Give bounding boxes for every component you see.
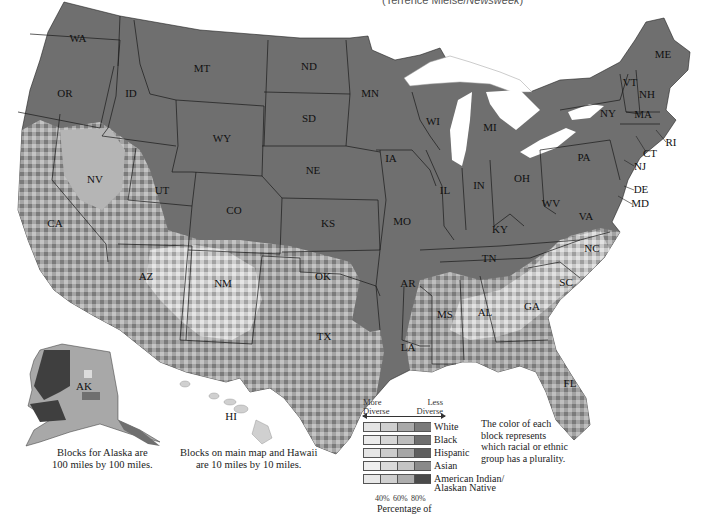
legend-swatch <box>397 448 414 458</box>
state-label-ks: KS <box>321 217 335 229</box>
state-label-hi: HI <box>225 410 237 422</box>
legend-axis-label: Percentage of <box>377 503 563 514</box>
legend-label-alaskan-native: Alaskan Native <box>434 482 496 493</box>
legend-swatch <box>380 448 397 458</box>
state-label-nm: NM <box>214 277 232 289</box>
state-label-nd: ND <box>301 60 317 72</box>
alaska-inset <box>26 344 160 446</box>
state-label-in: IN <box>473 179 485 191</box>
legend-swatch <box>414 435 431 445</box>
state-label-wi: WI <box>426 115 440 127</box>
legend-swatch <box>397 474 414 484</box>
legend-swatch <box>363 461 380 471</box>
state-label-ky: KY <box>492 223 508 235</box>
state-label-ut: UT <box>155 184 170 196</box>
main-scale-note: Blocks on main map and Hawaiiare 10 mile… <box>180 447 317 471</box>
state-label-or: OR <box>57 87 73 99</box>
state-label-me: ME <box>655 48 672 60</box>
state-label-mn: MN <box>361 87 379 99</box>
state-label-pa: PA <box>577 151 590 163</box>
legend-swatch <box>414 422 431 432</box>
state-label-va: VA <box>579 210 594 222</box>
state-label-la: LA <box>401 341 416 353</box>
legend-swatch <box>363 474 380 484</box>
state-label-mi: MI <box>483 121 497 133</box>
state-label-tn: TN <box>482 252 497 264</box>
state-label-nj: NJ <box>634 160 647 172</box>
state-label-ct: CT <box>643 147 657 159</box>
state-label-sd: SD <box>302 112 316 124</box>
legend-swatch <box>414 461 431 471</box>
legend-swatch <box>380 461 397 471</box>
state-label-ar: AR <box>400 277 416 289</box>
legend-swatch <box>414 448 431 458</box>
state-label-ok: OK <box>315 270 331 282</box>
legend-swatch <box>363 448 380 458</box>
state-label-il: IL <box>440 184 451 196</box>
legend-swatch <box>380 422 397 432</box>
state-label-nv: NV <box>87 173 103 185</box>
state-label-ca: CA <box>47 217 62 229</box>
state-label-ga: GA <box>524 300 540 312</box>
state-label-ak: AK <box>76 380 92 392</box>
legend-swatch <box>363 435 380 445</box>
legend-label: Black <box>434 434 457 445</box>
state-label-ne: NE <box>306 164 321 176</box>
state-label-vt: VT <box>623 76 638 88</box>
state-label-mo: MO <box>393 215 411 227</box>
state-label-al: AL <box>478 306 493 318</box>
state-label-ma: MA <box>634 108 652 120</box>
double-arrow-icon <box>363 416 445 417</box>
state-label-nc: NC <box>584 242 599 254</box>
legend-swatch <box>380 435 397 445</box>
legend-less-diverse: LessDiverse <box>409 398 443 416</box>
state-label-wy: WY <box>213 132 231 144</box>
legend-label: White <box>434 421 458 432</box>
legend-ticks: 40% 60% 80% <box>363 492 563 504</box>
state-label-az: AZ <box>139 270 154 282</box>
legend-swatch <box>414 474 431 484</box>
state-label-fl: FL <box>564 377 577 389</box>
state-label-wa: WA <box>69 32 86 44</box>
state-label-co: CO <box>226 204 241 216</box>
state-label-nh: NH <box>639 88 655 100</box>
legend-swatch <box>397 461 414 471</box>
state-label-tx: TX <box>317 330 332 342</box>
state-label-md: MD <box>631 197 649 209</box>
legend-swatch <box>380 474 397 484</box>
state-label-ms: MS <box>437 308 453 320</box>
legend-swatch <box>397 435 414 445</box>
state-label-sc: SC <box>559 276 572 288</box>
state-label-mt: MT <box>194 62 211 74</box>
state-label-oh: OH <box>514 172 530 184</box>
legend-description: The color of each block represents which… <box>481 418 571 464</box>
legend-label: Asian <box>434 460 457 471</box>
alaska-scale-note: Blocks for Alaska are100 miles by 100 mi… <box>52 447 153 471</box>
state-label-de: DE <box>634 183 649 195</box>
legend-swatch <box>397 422 414 432</box>
legend-label: Hispanic <box>434 447 470 458</box>
state-label-ia: IA <box>385 152 397 164</box>
state-label-ny: NY <box>600 107 616 119</box>
state-label-ri: RI <box>666 136 677 148</box>
state-label-id: ID <box>125 87 137 99</box>
legend-swatch <box>363 422 380 432</box>
state-label-wv: WV <box>542 197 560 209</box>
